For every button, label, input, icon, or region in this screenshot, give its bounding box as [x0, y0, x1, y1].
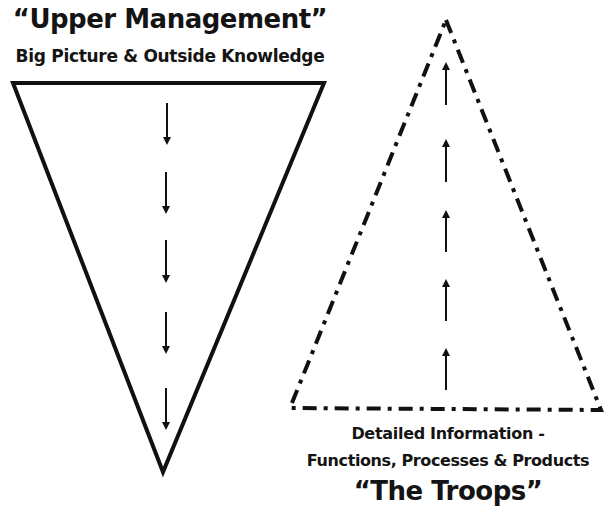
upper-management-title: “Upper Management” [0, 4, 340, 34]
troops-title: “The Troops” [280, 476, 616, 506]
troops-caption-line1: Detailed Information - [280, 424, 616, 443]
down-arrows [166, 103, 167, 426]
upper-management-subtitle: Big Picture & Outside Knowledge [0, 46, 340, 66]
inverted-triangle [13, 83, 324, 472]
troops-caption-line2: Functions, Processes & Products [280, 451, 616, 470]
